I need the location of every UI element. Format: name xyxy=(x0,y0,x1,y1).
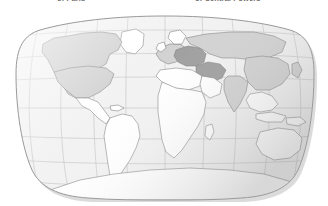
region-new-zealand xyxy=(308,154,316,166)
caption-row: of Paris of Central Powers xyxy=(0,0,328,6)
globe-shading xyxy=(10,14,320,202)
world-map-svg xyxy=(10,14,320,202)
caption-left-label: of Paris xyxy=(57,0,85,3)
world-map xyxy=(10,14,320,202)
figure-root: of Paris of Central Powers xyxy=(0,0,328,206)
map-body xyxy=(10,14,320,202)
caption-right-label: of Central Powers xyxy=(195,0,260,3)
